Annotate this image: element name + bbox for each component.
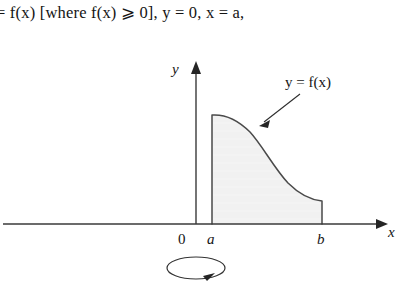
y-axis-label: y [170, 61, 179, 77]
x-axis-label: x [387, 224, 395, 240]
caption-equation-text: = f(x) [where f(x) ⩾ 0], y = 0, x = a, [0, 1, 412, 25]
y-axis-arrow-up-icon [191, 61, 201, 74]
figure-root: = f(x) [where f(x) ⩾ 0], y = 0, x = a, y… [0, 0, 412, 287]
curve-label: y = f(x) [285, 74, 331, 91]
right-bound-label-b: b [317, 231, 325, 247]
origin-label: 0 [178, 231, 186, 247]
left-bound-label-a: a [207, 231, 215, 247]
x-axis-arrow-right-icon [376, 219, 388, 229]
rotation-ellipse-icon [167, 257, 225, 279]
diagram-canvas: y x 0 a b y = f(x) [0, 28, 412, 287]
shaded-region-fill [212, 115, 322, 224]
curve-label-leader-line [264, 94, 300, 122]
